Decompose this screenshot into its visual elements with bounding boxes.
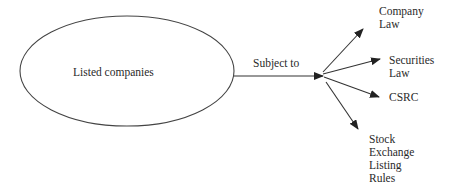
target-securities-law: Securities Law: [389, 54, 434, 80]
target-line: Law: [389, 67, 434, 80]
source-node-label: Listed companies: [73, 66, 154, 79]
arrow-to-stock-exchange-listing-rules: [326, 82, 358, 129]
target-line: Company: [379, 5, 424, 18]
target-line: Stock: [369, 133, 414, 146]
connector-label: Subject to: [253, 57, 299, 70]
target-company-law: Company Law: [379, 5, 424, 31]
target-line: Rules: [369, 172, 414, 185]
target-line: CSRC: [389, 91, 418, 104]
arrow-to-securities-law: [323, 59, 380, 74]
target-line: Law: [379, 18, 424, 31]
target-line: Exchange: [369, 146, 414, 159]
target-csrc: CSRC: [389, 91, 418, 104]
target-stock-exchange-listing-rules: Stock Exchange Listing Rules: [369, 133, 414, 185]
target-line: Securities: [389, 54, 434, 67]
arrow-to-csrc: [324, 77, 379, 97]
target-line: Listing: [369, 159, 414, 172]
